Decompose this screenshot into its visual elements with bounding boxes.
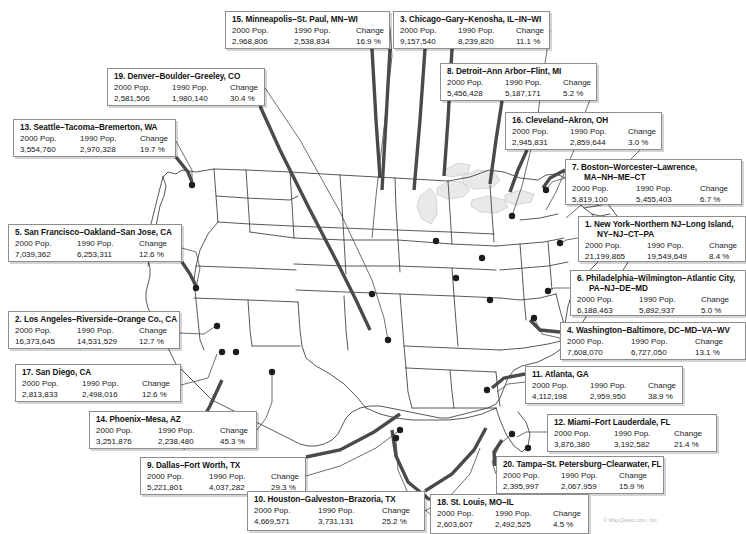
callout-atlanta[interactable]: 11. Atlanta, GA 2000 Pop. 1990 Pop. Chan… <box>525 366 683 404</box>
col-header-1990: 1990 Pop. <box>80 134 140 144</box>
col-header-2000: 2000 Pop. <box>400 26 458 36</box>
col-header-2000: 2000 Pop. <box>114 83 172 93</box>
value-pop2000: 7,039,362 <box>15 250 77 260</box>
col-header-1990: 1990 Pop. <box>561 471 619 481</box>
col-header-change: Change <box>139 326 173 336</box>
col-header-2000: 2000 Pop. <box>567 337 631 347</box>
callout-table: 2000 Pop. 1990 Pop. Change 3,876,380 3,1… <box>554 429 710 450</box>
col-header-change: Change <box>628 127 656 137</box>
callout-table: 2000 Pop. 1990 Pop. Change 2,581,506 1,9… <box>114 83 258 104</box>
value-pop2000: 3,554,760 <box>20 145 80 155</box>
callout-st-louis[interactable]: 18. St. Louis, MO–IL 2000 Pop. 1990 Pop.… <box>430 494 589 534</box>
value-pop2000: 2,581,506 <box>114 94 172 104</box>
col-header-change: Change <box>648 381 676 391</box>
value-pop1990: 14,531,529 <box>77 337 139 347</box>
col-header-change: Change <box>230 83 258 93</box>
col-header-2000: 2000 Pop. <box>22 379 82 389</box>
callout-boston-worcester-lawrence[interactable]: 7. Boston–Worcester–Lawrence, MA–NH–ME–C… <box>565 159 742 205</box>
value-change: 8.4 % <box>709 252 739 262</box>
callout-title: 9. Dallas–Fort Worth, TX <box>147 461 299 471</box>
value-pop2000: 2,813,833 <box>22 390 82 400</box>
callout-table: 2000 Pop. 1990 Pop. Change 5,819,100 5,4… <box>572 184 735 205</box>
callout-houston-galveston-brazoria[interactable]: 10. Houston–Galveston–Brazoria, TX 2000 … <box>247 491 425 531</box>
callout-san-diego[interactable]: 17. San Diego, CA 2000 Pop. 1990 Pop. Ch… <box>15 364 181 402</box>
col-header-2000: 2000 Pop. <box>147 472 209 482</box>
col-header-1990: 1990 Pop. <box>495 509 553 519</box>
callout-los-angeles-riverside-orange-co[interactable]: 2. Los Angeles–Riverside–Orange Co., CA … <box>8 311 180 349</box>
callout-philadelphia-wilmington-atlantic-city[interactable]: 6. Philadelphia–Wilmington–Atlantic City… <box>570 270 746 316</box>
value-pop2000: 3,876,380 <box>554 440 614 450</box>
callout-washington-baltimore[interactable]: 4. Washington–Baltimore, DC–MD–VA–WV 200… <box>560 322 746 360</box>
value-pop1990: 5,892,937 <box>639 306 701 316</box>
value-change: 11.1 % <box>516 37 544 47</box>
callout-title: 8. Detroit–Ann Arbor–Flint, MI <box>447 67 590 77</box>
value-pop2000: 21,199,865 <box>585 252 647 262</box>
value-pop2000: 5,456,428 <box>447 89 505 99</box>
callout-cleveland-akron[interactable]: 16. Cleveland–Akron, OH 2000 Pop. 1990 P… <box>505 112 662 150</box>
value-change: 5.0 % <box>701 306 739 316</box>
callout-table: 2000 Pop. 1990 Pop. Change 9,157,540 8,2… <box>400 26 543 47</box>
callout-tampa-st-petersburg-clearwater[interactable]: 20. Tampa–St. Petersburg–Clearwater, FL … <box>496 456 664 494</box>
callout-title: 5. San Francisco–Oakland–San Jose, CA <box>15 228 175 238</box>
col-header-2000: 2000 Pop. <box>577 295 639 305</box>
callout-title: 7. Boston–Worcester–Lawrence, <box>572 163 735 173</box>
value-pop2000: 16,373,645 <box>15 337 77 347</box>
callout-table: 2000 Pop. 1990 Pop. Change 4,669,571 3,7… <box>254 506 418 527</box>
callout-title-line2: MA–NH–ME–CT <box>572 173 735 183</box>
callout-title: 12. Miami–Fort Lauderdale, FL <box>554 418 710 428</box>
value-change: 3.0 % <box>628 138 656 148</box>
col-header-change: Change <box>142 379 174 389</box>
copyright-notice: © MapQuest.com, Inc. <box>603 517 659 523</box>
col-header-2000: 2000 Pop. <box>512 127 570 137</box>
col-header-2000: 2000 Pop. <box>15 239 77 249</box>
callout-title: 16. Cleveland–Akron, OH <box>512 116 655 126</box>
value-pop1990: 2,959,950 <box>590 392 648 402</box>
col-header-change: Change <box>516 26 544 36</box>
col-header-change: Change <box>553 509 582 519</box>
callout-title: 1. New York–Northern NJ–Long Island, <box>585 220 739 230</box>
value-pop2000: 4,669,571 <box>254 517 318 527</box>
callout-table: 2000 Pop. 1990 Pop. Change 16,373,645 14… <box>15 326 173 347</box>
col-header-2000: 2000 Pop. <box>15 326 77 336</box>
value-pop2000: 6,188,463 <box>577 306 639 316</box>
col-header-change: Change <box>220 426 250 436</box>
value-pop1990: 2,538,834 <box>294 37 356 47</box>
col-header-change: Change <box>382 506 418 516</box>
callout-title: 10. Houston–Galveston–Brazoria, TX <box>254 495 418 505</box>
value-pop2000: 2,395,997 <box>503 482 561 492</box>
callout-miami-fort-lauderdale[interactable]: 12. Miami–Fort Lauderdale, FL 2000 Pop. … <box>547 414 717 452</box>
callout-chicago-gary-kenosha[interactable]: 3. Chicago–Gary–Kenosha, IL–IN–WI 2000 P… <box>393 11 550 49</box>
callout-san-francisco-oakland-san-jose[interactable]: 5. San Francisco–Oakland–San Jose, CA 20… <box>8 224 182 262</box>
callout-table: 2000 Pop. 1990 Pop. Change 5,456,428 5,1… <box>447 78 590 99</box>
col-header-1990: 1990 Pop. <box>318 506 382 516</box>
callout-title: 17. San Diego, CA <box>22 368 174 378</box>
col-header-change: Change <box>139 239 175 249</box>
col-header-1990: 1990 Pop. <box>631 337 695 347</box>
callout-denver-boulder-greeley[interactable]: 19. Denver–Boulder–Greeley, CO 2000 Pop.… <box>107 68 265 106</box>
value-change: 13.1 % <box>695 348 739 358</box>
value-change: 19.7 % <box>140 145 169 155</box>
col-header-1990: 1990 Pop. <box>209 472 271 482</box>
col-header-change: Change <box>700 184 735 194</box>
value-pop1990: 5,187,171 <box>505 89 563 99</box>
callout-detroit-ann-arbor-flint[interactable]: 8. Detroit–Ann Arbor–Flint, MI 2000 Pop.… <box>440 63 597 101</box>
callout-table: 2000 Pop. 1990 Pop. Change 2,603,607 2,4… <box>437 509 582 530</box>
callout-phoenix-mesa[interactable]: 14. Phoenix–Mesa, AZ 2000 Pop. 1990 Pop.… <box>89 411 257 449</box>
callout-new-york-northern-nj-long-island[interactable]: 1. New York–Northern NJ–Long Island, NY–… <box>578 216 746 262</box>
callout-table: 2000 Pop. 1990 Pop. Change 3,554,760 2,9… <box>20 134 169 155</box>
value-change: 30.4 % <box>230 94 258 104</box>
value-pop1990: 1,980,140 <box>172 94 230 104</box>
col-header-change: Change <box>356 26 384 36</box>
callout-minneapolis-st-paul[interactable]: 15. Minneapolis–St. Paul, MN–WI 2000 Pop… <box>225 11 390 49</box>
col-header-1990: 1990 Pop. <box>505 78 563 88</box>
callout-dallas-fort-worth[interactable]: 9. Dallas–Fort Worth, TX 2000 Pop. 1990 … <box>140 457 306 495</box>
col-header-change: Change <box>271 472 299 482</box>
col-header-change: Change <box>695 337 739 347</box>
value-change: 21.4 % <box>674 440 710 450</box>
col-header-1990: 1990 Pop. <box>570 127 628 137</box>
callout-table: 2000 Pop. 1990 Pop. Change 2,395,997 2,0… <box>503 471 657 492</box>
callout-seattle-tacoma-bremerton[interactable]: 13. Seattle–Tacoma–Bremerton, WA 2000 Po… <box>13 119 176 157</box>
value-pop2000: 4,112,198 <box>532 392 590 402</box>
col-header-1990: 1990 Pop. <box>77 239 139 249</box>
value-pop2000: 2,945,831 <box>512 138 570 148</box>
